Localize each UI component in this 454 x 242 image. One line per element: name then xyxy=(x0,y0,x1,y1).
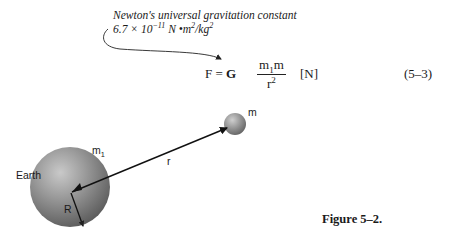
denominator-exp: 2 xyxy=(271,75,276,85)
constant-title: Newton's universal gravitation constant xyxy=(113,9,297,21)
equation-number: (5–3) xyxy=(404,66,432,82)
equation-denominator: r2 xyxy=(257,75,286,92)
equation-lhs: F = G xyxy=(205,66,236,82)
constant-units-denom: /kg xyxy=(195,23,209,35)
radius-label: R xyxy=(64,203,72,215)
object-mass-label: m xyxy=(248,106,257,118)
earth-mass-m: m xyxy=(92,144,101,156)
numerator-m: m xyxy=(274,57,284,72)
equation-f: F = xyxy=(205,66,226,81)
equation-fraction: m1m r2 xyxy=(257,57,286,92)
earth-label: Earth xyxy=(16,169,41,181)
constant-value: 6.7 × 10−11 N •m2/kg2 xyxy=(113,23,213,35)
constant-mantissa: 6.7 × 10 xyxy=(113,23,152,35)
mass-sphere xyxy=(224,113,246,135)
figure-caption: Figure 5–2. xyxy=(322,212,382,227)
numerator-m1: m xyxy=(259,57,269,72)
distance-label: r xyxy=(167,155,171,167)
constant-units-denom-exp: 2 xyxy=(209,21,213,30)
equation-numerator: m1m xyxy=(257,57,286,75)
constant-units: N •m xyxy=(165,23,191,35)
earth-mass-sub: 1 xyxy=(101,150,105,159)
earth-sphere xyxy=(30,147,110,227)
equation-units: [N] xyxy=(300,66,318,82)
earth-mass-label: m1 xyxy=(92,144,105,156)
equation-g: G xyxy=(226,66,236,81)
constant-exponent: −11 xyxy=(152,21,165,30)
